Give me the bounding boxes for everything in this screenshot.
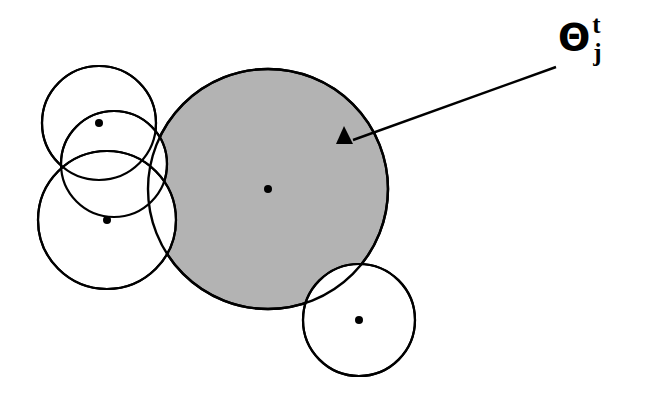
large-circle-center-dot (264, 185, 272, 193)
figure-canvas: Θtj (0, 0, 672, 395)
diagram-svg (0, 0, 672, 395)
bottom-left-center-dot (103, 216, 111, 224)
bottom-right-center-dot (355, 316, 363, 324)
top-left-center-dot (95, 119, 103, 127)
